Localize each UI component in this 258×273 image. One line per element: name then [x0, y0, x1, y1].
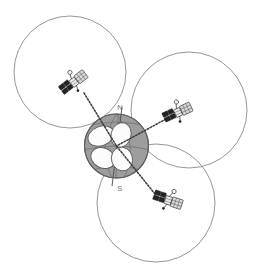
satellite-northwest: [54, 64, 91, 100]
north-pole-label: N: [117, 103, 123, 112]
satellite-east: [159, 95, 195, 128]
satellite-south: [151, 184, 186, 215]
diagram-canvas: N S: [0, 0, 258, 273]
satellite-coverage-figure: Satellite constellation coverage diagram…: [0, 0, 258, 273]
south-pole-label: S: [117, 184, 122, 193]
